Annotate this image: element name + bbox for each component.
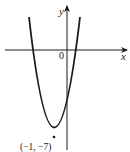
y-axis-label: y <box>58 5 64 17</box>
vertex-label: (−1, −7) <box>20 142 51 152</box>
origin-label: 0 <box>59 50 64 61</box>
x-axis-label: x <box>120 50 126 62</box>
parabola-figure: y x 0 (−1, −7) <box>0 0 130 152</box>
vertex-point <box>53 136 56 139</box>
parabola-curve <box>29 17 80 128</box>
